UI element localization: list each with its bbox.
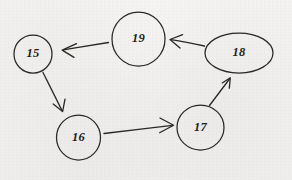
edge-17-to-18 [210,78,231,106]
node-17[interactable]: 17 [177,105,224,150]
node-18-label: 18 [233,45,246,59]
node-19[interactable]: 19 [112,12,165,66]
node-17-label: 17 [194,120,207,134]
edge-18-to-19 [170,35,205,48]
directed-graph: 15 19 18 16 17 [0,0,292,180]
node-18[interactable]: 18 [205,33,273,73]
node-16-label: 16 [72,130,85,144]
node-16[interactable]: 16 [57,115,101,160]
node-15[interactable]: 15 [14,35,52,73]
diagram-canvas: 15 19 18 16 17 [0,0,292,180]
node-19-label: 19 [132,31,145,45]
node-15-label: 15 [27,46,40,60]
edge-19-to-15 [62,43,108,58]
edge-15-to-16 [43,73,65,112]
edge-16-to-17 [104,118,174,134]
